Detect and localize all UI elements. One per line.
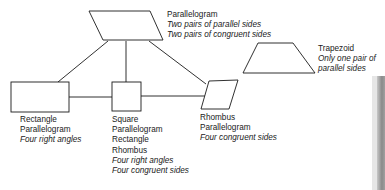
square-parent: Parallelogram <box>112 125 189 135</box>
parallelogram-name: Parallelogram <box>167 10 271 20</box>
square-property: Four right angles <box>112 156 189 166</box>
square-name: Square <box>112 115 189 125</box>
rhombus-name: Rhombus <box>200 113 277 123</box>
square-property: Four congruent sides <box>112 166 189 176</box>
rectangle-parent: Parallelogram <box>20 125 81 135</box>
rhombus-label: Rhombus Parallelogram Four congruent sid… <box>200 113 277 144</box>
parallelogram-property: Two pairs of congruent sides <box>167 30 271 40</box>
trapezoid-name: Trapezoid <box>318 44 376 54</box>
trapezoid-shape <box>243 43 315 73</box>
square-label: Square Parallelogram Rectangle Rhombus F… <box>112 115 189 176</box>
rectangle-label: Rectangle Parallelogram Four right angle… <box>20 115 81 146</box>
rectangle-property: Four right angles <box>20 135 81 145</box>
square-shape <box>112 82 141 111</box>
parallelogram-shape <box>89 11 163 40</box>
trapezoid-property: Only one pair of <box>318 54 376 64</box>
rhombus-shape <box>201 80 238 109</box>
page-edge-bar <box>377 76 385 190</box>
rhombus-parent: Parallelogram <box>200 123 277 133</box>
square-parent: Rhombus <box>112 146 189 156</box>
rectangle-name: Rectangle <box>20 115 81 125</box>
trapezoid-property: parallel sides <box>318 64 376 74</box>
rhombus-property: Four congruent sides <box>200 133 277 143</box>
square-parent: Rectangle <box>112 135 189 145</box>
trapezoid-label: Trapezoid Only one pair of parallel side… <box>318 44 376 75</box>
rectangle-shape <box>11 82 69 112</box>
edge-parallelogram-rhombus <box>149 41 206 84</box>
parallelogram-label: Parallelogram Two pairs of parallel side… <box>167 10 271 41</box>
parallelogram-property: Two pairs of parallel sides <box>167 20 271 30</box>
edge-parallelogram-rectangle <box>58 41 108 82</box>
